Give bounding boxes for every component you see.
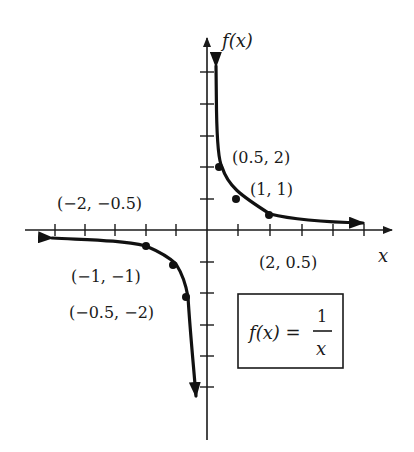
- label-point-1-1: (1, 1): [250, 180, 293, 199]
- y-axis-label: f(x): [220, 30, 253, 51]
- label-point-neg1-neg1: (−1, −1): [71, 267, 141, 286]
- formula-numerator: 1: [317, 307, 327, 326]
- point-1-1: [232, 195, 240, 203]
- x-axis-label: x: [378, 245, 388, 266]
- formula-box: f(x) = 1 x: [238, 294, 343, 368]
- label-point-2-0.5: (2, 0.5): [259, 253, 317, 272]
- label-point-neg0.5-neg2: (−0.5, −2): [69, 303, 154, 322]
- label-point-neg2-neg0.5: (−2, −0.5): [57, 194, 142, 213]
- point-2-0.5: [265, 211, 273, 219]
- formula-denominator: x: [316, 338, 326, 359]
- point-neg0.5-neg2: [182, 293, 190, 301]
- point-neg1-neg1: [169, 261, 177, 269]
- point-0.5-2: [215, 163, 223, 171]
- formula-lhs: f(x) =: [247, 322, 301, 343]
- reciprocal-function-graph: f(x) x (0.5, 2) (1, 1) (2, 0.5) (−2, −0.…: [0, 0, 414, 452]
- label-point-0.5-2: (0.5, 2): [232, 148, 290, 167]
- point-neg2-neg0.5: [142, 242, 150, 250]
